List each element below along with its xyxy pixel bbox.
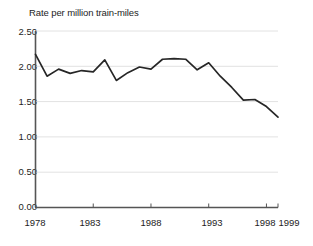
gridlines [36, 31, 278, 172]
data-series-line [36, 54, 279, 117]
plot-area [0, 0, 313, 246]
axes [35, 31, 278, 208]
line-chart: Rate per million train-miles 2.50 2.00 1… [0, 0, 313, 246]
